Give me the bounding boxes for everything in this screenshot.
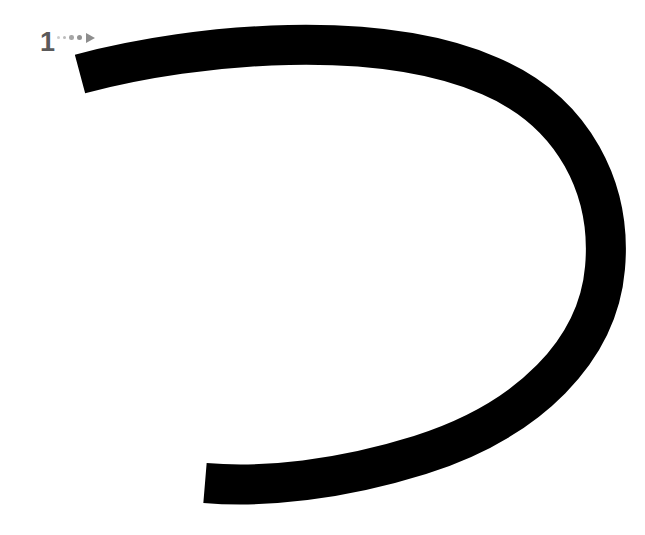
trail-dot-3-icon (69, 35, 74, 40)
annotation-canvas: 1 (0, 0, 645, 535)
direction-trail (57, 33, 96, 43)
arrow-head-right-icon (86, 33, 95, 43)
trail-dot-2-icon (63, 36, 67, 40)
step-marker-1[interactable]: 1 (40, 30, 95, 57)
trail-dot-1-icon (57, 36, 60, 39)
step-number-label: 1 (40, 29, 55, 56)
marker-layer: 1 (0, 0, 645, 535)
trail-dot-4-icon (77, 35, 83, 41)
